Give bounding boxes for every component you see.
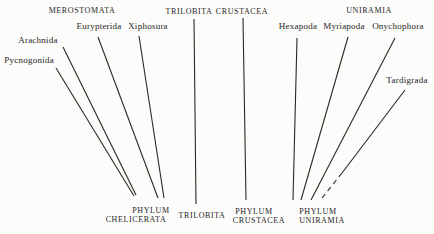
header-trilobita: TRILOBITA (166, 8, 213, 16)
label-phylum-crustacea-line1: PHYLUM (235, 208, 272, 216)
label-phylum-uniramia-line1: PHYLUM (299, 208, 336, 216)
tardigrada-line-solid (342, 90, 405, 173)
xiphosura-line (139, 36, 164, 198)
label-phylum-chelicerata-line2: CHELICERATA (106, 216, 167, 224)
label-hexapoda: Hexapoda (279, 22, 317, 31)
label-phylum-uniramia-line2: UNIRAMIA (299, 217, 345, 225)
arachnida-line (63, 47, 136, 195)
lineage-lines (0, 0, 434, 234)
header-uniramia: UNIRAMIA (346, 7, 392, 15)
arthropod-phylogeny-diagram: MEROSTOMATA TRILOBITA CRUSTACEA UNIRAMIA… (0, 0, 434, 234)
label-pycnogonida: Pycnogonida (4, 56, 54, 65)
trilobita-line (194, 19, 196, 204)
pycnogonida-line (56, 68, 134, 196)
label-onychophora: Onychophora (372, 22, 424, 31)
label-phylum-trilobita: TRILOBITA (179, 212, 226, 220)
label-xiphosura: Xiphosura (128, 22, 168, 31)
hexapoda-line (293, 38, 297, 200)
eurypterida-line (98, 37, 158, 198)
tardigrada-line-dashed (322, 173, 342, 198)
label-tardigrada: Tardigrada (386, 76, 427, 85)
label-myriapoda: Myriapoda (323, 22, 365, 31)
header-crustacea: CRUSTACEA (216, 8, 268, 16)
label-eurypterida: Eurypterida (76, 22, 121, 31)
crustacea-line (243, 18, 246, 200)
label-phylum-chelicerata-line1: PHYLUM (132, 207, 169, 215)
label-arachnida: Arachnida (18, 36, 58, 45)
myriapoda-line (301, 37, 348, 200)
label-phylum-crustacea-line2: CRUSTACEA (233, 217, 285, 225)
header-merostomata: MEROSTOMATA (49, 7, 116, 15)
